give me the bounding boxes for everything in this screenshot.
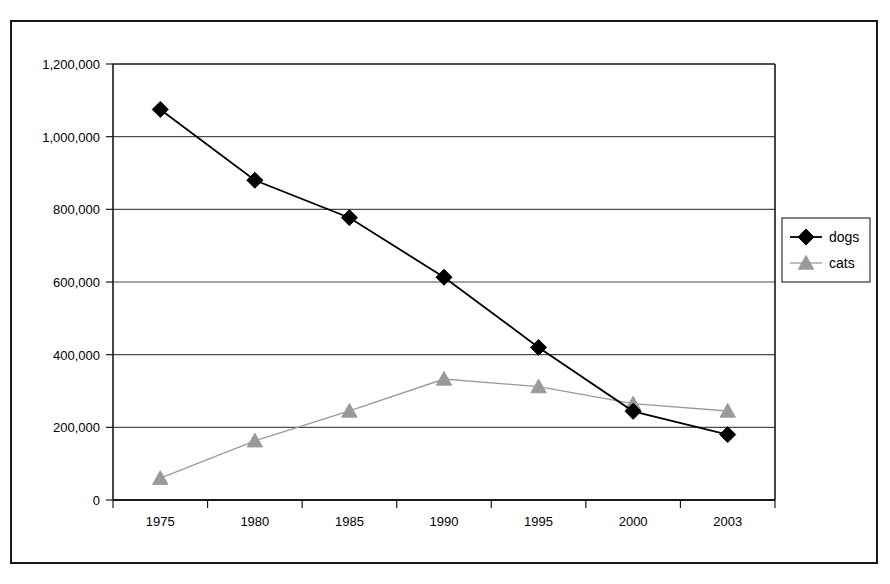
legend: dogscats (782, 218, 870, 282)
line-chart: 1,200,0001,000,000800,000600,000400,0002… (0, 0, 890, 584)
chart-figure: 1,200,0001,000,000800,000600,000400,0002… (0, 0, 890, 584)
x-tick-label: 2003 (713, 514, 742, 529)
y-tick-label: 200,000 (53, 420, 100, 435)
x-tick-label: 1985 (335, 514, 364, 529)
x-tick-label: 1990 (430, 514, 459, 529)
x-axis (113, 500, 775, 508)
series-dogs (152, 101, 735, 442)
x-tick-labels: 1975198019851990199520002003 (146, 514, 742, 529)
x-tick-label: 2000 (619, 514, 648, 529)
data-point-dogs-2003 (720, 427, 736, 443)
y-tick-label: 400,000 (53, 348, 100, 363)
legend-label-cats: cats (829, 255, 855, 271)
y-tick-label: 1,200,000 (42, 57, 100, 72)
data-point-cats-1990 (436, 372, 451, 386)
data-point-dogs-1975 (152, 101, 168, 117)
data-point-dogs-1995 (531, 339, 547, 355)
x-tick-label: 1975 (146, 514, 175, 529)
x-tick-label: 1980 (240, 514, 269, 529)
data-point-dogs-1990 (436, 269, 452, 285)
y-tick-label: 0 (93, 493, 100, 508)
series-line-cats (160, 379, 727, 478)
data-point-dogs-1980 (247, 172, 263, 188)
x-tick-label: 1995 (524, 514, 553, 529)
data-point-cats-1975 (153, 471, 168, 485)
data-point-cats-1985 (342, 403, 357, 417)
data-point-dogs-1985 (341, 210, 357, 226)
y-tick-label: 1,000,000 (42, 130, 100, 145)
legend-box (782, 218, 870, 282)
series-cats (153, 372, 736, 485)
legend-label-dogs: dogs (829, 229, 859, 245)
y-tick-labels: 1,200,0001,000,000800,000600,000400,0002… (42, 57, 100, 508)
y-tick-label: 600,000 (53, 275, 100, 290)
data-point-cats-1980 (247, 433, 262, 447)
y-tick-label: 800,000 (53, 202, 100, 217)
